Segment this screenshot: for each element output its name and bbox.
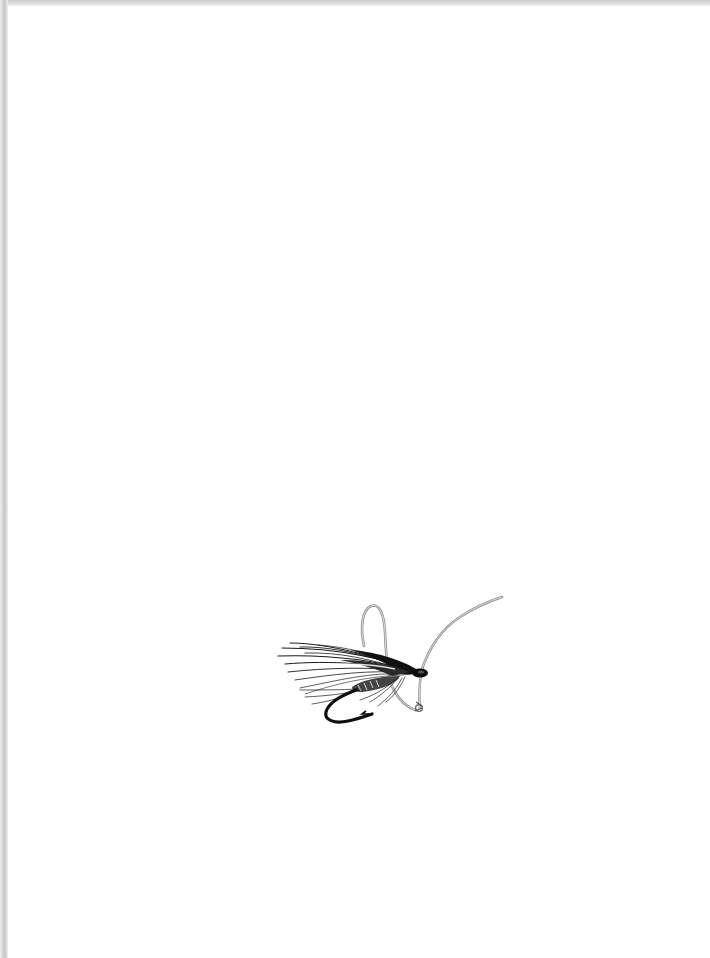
page-top-edge-shadow [0, 0, 710, 6]
book-page [0, 0, 710, 958]
page-left-edge-shadow [0, 0, 8, 958]
fishing-fly-icon [270, 590, 510, 730]
